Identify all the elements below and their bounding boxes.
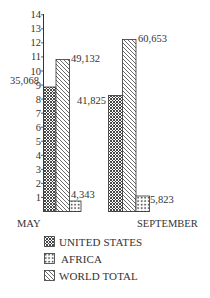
legend-label: WORLD TOTAL <box>59 270 138 282</box>
y-tick-label: 7 <box>36 108 41 119</box>
y-tick-label: 8 <box>36 94 41 105</box>
bar-september-united-states <box>109 96 123 212</box>
y-tick-label: 5 <box>36 136 41 147</box>
y-tick-label: 14 <box>31 9 42 20</box>
bar-september-world-total <box>123 40 137 212</box>
legend-item-world-total: WORLD TOTAL <box>44 267 142 284</box>
label-may-world-total: 49,132 <box>71 53 100 64</box>
bar-chart: 1234567891011121314 35,068 49,132 4,343 … <box>0 0 210 298</box>
y-tick-label: 2 <box>36 178 41 189</box>
dots-swatch-icon <box>44 253 55 264</box>
bar-september-africa <box>136 196 150 212</box>
label-may-united-states: 35,068 <box>10 75 39 86</box>
bar-may-world-total <box>56 60 70 212</box>
y-tick-label: 13 <box>31 23 42 34</box>
diagonal-swatch-icon <box>44 270 55 281</box>
y-tick-label: 11 <box>31 51 41 62</box>
label-september-world-total: 60,653 <box>138 33 167 44</box>
y-tick-label: 12 <box>31 37 42 48</box>
bar-may-united-states <box>44 87 57 212</box>
label-september-united-states: 41,825 <box>77 95 106 106</box>
y-tick-label: 1 <box>36 192 41 203</box>
legend-label: AFRICA <box>61 253 102 265</box>
bar-may-africa <box>70 201 82 212</box>
crosshatch-swatch-icon <box>44 236 55 247</box>
y-tick-label: 4 <box>36 150 42 161</box>
label-may-africa: 4,343 <box>71 189 95 200</box>
y-tick-label: 3 <box>36 164 41 175</box>
category-september: SEPTEMBER <box>137 218 198 229</box>
y-tick-label: 6 <box>36 122 41 133</box>
legend-item-united-states: UNITED STATES <box>44 233 142 250</box>
category-may: MAY <box>17 218 41 229</box>
legend-label: UNITED STATES <box>59 236 142 248</box>
legend-item-africa: AFRICA <box>44 250 142 267</box>
label-september-africa: 5,823 <box>150 194 174 205</box>
legend: UNITED STATES AFRICA WORLD TOTAL <box>44 233 142 284</box>
y-axis-ticks: 1234567891011121314 <box>31 9 44 203</box>
